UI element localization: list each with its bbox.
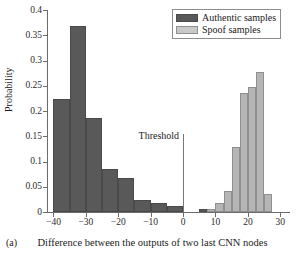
- legend-label-spoof: Spoof samples: [202, 25, 261, 35]
- y-tick-mark: [43, 187, 47, 188]
- y-tick-mark: [43, 35, 47, 36]
- histogram-bar: [134, 200, 150, 212]
- y-tick-label: 0.2: [30, 107, 42, 117]
- legend-swatch-authentic-icon: [176, 14, 198, 22]
- x-tick-label: 20: [243, 218, 253, 228]
- y-tick: 0.35: [47, 35, 48, 36]
- histogram-bar: [232, 147, 240, 212]
- y-tick: 0.1: [47, 162, 48, 163]
- threshold-line: [183, 134, 184, 212]
- x-axis-line: [47, 212, 290, 213]
- y-tick: 0.4: [47, 10, 48, 11]
- y-tick-label: 0.05: [25, 183, 42, 193]
- legend-swatch-spoof-icon: [176, 26, 198, 34]
- y-tick: 0.2: [47, 111, 48, 112]
- histogram-bar: [224, 191, 232, 212]
- y-tick-mark: [43, 162, 47, 163]
- y-tick-label: 0.4: [30, 6, 42, 16]
- y-tick: 0.3: [47, 61, 48, 62]
- y-tick: 0.15: [47, 136, 48, 137]
- x-tick-label: −10: [143, 218, 158, 228]
- x-axis-title: Difference between the outputs of two la…: [0, 238, 305, 249]
- y-tick-mark: [43, 86, 47, 87]
- panel-caption: (a): [6, 238, 17, 248]
- y-tick-label: 0.25: [25, 82, 42, 92]
- x-tick-label: 30: [276, 218, 286, 228]
- histogram-bar: [256, 72, 264, 212]
- legend-entry-spoof: Spoof samples: [176, 24, 276, 36]
- x-tick-label: −20: [111, 218, 126, 228]
- histogram-bar: [199, 209, 207, 212]
- histogram-bar: [215, 203, 223, 212]
- histogram-figure: 00.050.10.150.20.250.30.350.4 −40−30−20−…: [0, 0, 305, 263]
- y-tick-mark: [43, 212, 47, 213]
- histogram-bar: [86, 118, 102, 212]
- y-axis-title: Probability: [4, 68, 14, 112]
- histogram-bar: [207, 209, 215, 212]
- y-tick: 0.05: [47, 187, 48, 188]
- y-tick-label: 0.15: [25, 132, 42, 142]
- plot-area: 00.050.10.150.20.250.30.350.4 −40−30−20−…: [47, 10, 290, 213]
- y-tick-mark: [43, 136, 47, 137]
- y-tick-mark: [43, 61, 47, 62]
- y-tick-label: 0: [37, 208, 42, 218]
- histogram-bar: [118, 178, 134, 212]
- y-tick-mark: [43, 10, 47, 11]
- x-tick-label: −30: [78, 218, 93, 228]
- histogram-bar: [102, 169, 118, 212]
- x-tick-label: 0: [181, 218, 186, 228]
- y-tick: 0: [47, 212, 48, 213]
- histogram-bar: [70, 26, 86, 212]
- y-tick-label: 0.35: [25, 31, 42, 41]
- histogram-bar: [240, 93, 248, 212]
- y-tick: 0.25: [47, 86, 48, 87]
- threshold-label: Threshold: [139, 131, 180, 141]
- legend-label-authentic: Authentic samples: [202, 13, 276, 23]
- histogram-bar: [151, 203, 167, 212]
- histogram-bar: [167, 206, 183, 212]
- histogram-bar: [53, 99, 69, 212]
- legend: Authentic samples Spoof samples: [172, 9, 281, 39]
- y-tick-label: 0.3: [30, 56, 42, 66]
- histogram-bar: [264, 194, 272, 212]
- x-tick-label: 10: [211, 218, 221, 228]
- histogram-bar: [248, 87, 256, 212]
- y-tick-label: 0.1: [30, 157, 42, 167]
- x-tick-label: −40: [46, 218, 61, 228]
- y-tick-mark: [43, 111, 47, 112]
- legend-entry-authentic: Authentic samples: [176, 12, 276, 24]
